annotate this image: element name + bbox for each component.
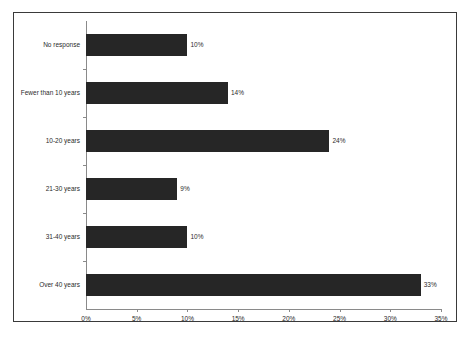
x-axis-tick-mark: [187, 309, 188, 312]
x-axis-tick-mark: [238, 309, 239, 312]
bar[interactable]: [86, 178, 177, 200]
category-label: 21-30 years: [0, 185, 80, 193]
bar-value-label: 24%: [332, 137, 345, 145]
x-axis-tick-mark: [390, 309, 391, 312]
category-label: Fewer than 10 years: [0, 89, 80, 97]
bar-row: 24%10-20 years: [86, 117, 441, 165]
bar-row: 14%Fewer than 10 years: [86, 69, 441, 117]
bar-value-label: 10%: [190, 233, 203, 241]
bar-row: 33%Over 40 years: [86, 261, 441, 309]
x-axis-tick-label: 20%: [274, 315, 304, 323]
x-axis-tick-label: 35%: [426, 315, 456, 323]
x-axis-tick-label: 10%: [172, 315, 202, 323]
bar-value-label: 14%: [231, 89, 244, 97]
bar[interactable]: [86, 274, 421, 296]
bar-row: 9%21-30 years: [86, 165, 441, 213]
bar-value-label: 10%: [190, 41, 203, 49]
bar-row: 10%No response: [86, 21, 441, 69]
x-axis-line: [86, 309, 441, 310]
plot-area: 10%No response14%Fewer than 10 years24%1…: [86, 21, 441, 309]
x-axis-tick-label: 30%: [375, 315, 405, 323]
x-axis-tick-mark: [137, 309, 138, 312]
x-axis-tick-mark: [441, 309, 442, 312]
x-axis-tick-label: 15%: [223, 315, 253, 323]
bar[interactable]: [86, 226, 187, 248]
bar-value-label: 9%: [180, 185, 189, 193]
bar[interactable]: [86, 34, 187, 56]
chart-frame: 10%No response14%Fewer than 10 years24%1…: [13, 12, 457, 322]
bar[interactable]: [86, 82, 228, 104]
x-axis-tick-label: 0%: [71, 315, 101, 323]
category-label: No response: [0, 41, 80, 49]
category-label: 31-40 years: [0, 233, 80, 241]
x-axis-tick-mark: [289, 309, 290, 312]
bar-row: 10%31-40 years: [86, 213, 441, 261]
x-axis-tick-mark: [340, 309, 341, 312]
x-axis-tick-label: 25%: [325, 315, 355, 323]
category-label: 10-20 years: [0, 137, 80, 145]
bar[interactable]: [86, 130, 329, 152]
x-axis-tick-label: 5%: [122, 315, 152, 323]
category-label: Over 40 years: [0, 281, 80, 289]
bar-value-label: 33%: [424, 281, 437, 289]
